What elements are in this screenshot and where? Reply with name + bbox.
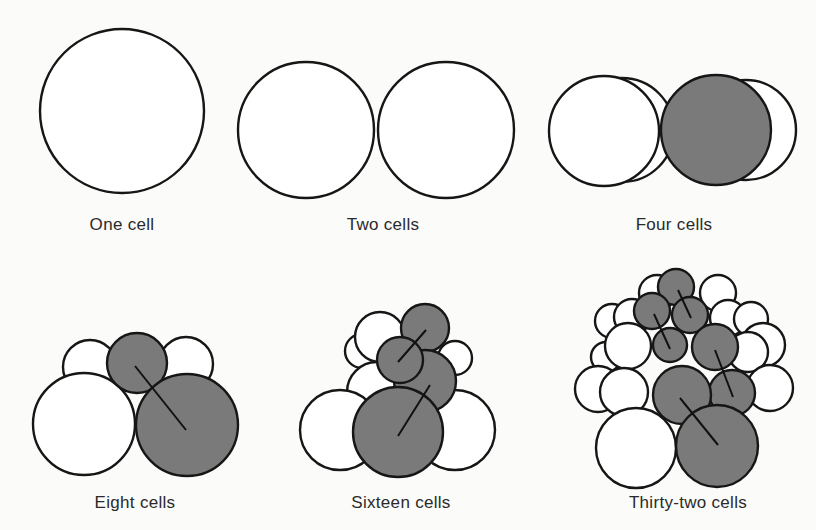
panel-one-cell	[40, 29, 204, 193]
panel-eight-cells	[33, 333, 238, 476]
panel-thirty-two-cells	[575, 269, 793, 488]
label-four-cells: Four cells	[636, 215, 713, 235]
panel-sixteen-cells	[300, 304, 495, 477]
label-sixteen-cells: Sixteen cells	[351, 493, 450, 513]
label-eight-cells: Eight cells	[95, 493, 176, 513]
panel-four-cells	[549, 75, 796, 186]
cleavage-diagram	[0, 0, 816, 530]
label-thirty-two-cells: Thirty-two cells	[629, 493, 747, 513]
label-one-cell: One cell	[90, 215, 155, 235]
label-two-cells: Two cells	[347, 215, 420, 235]
panel-two-cells	[238, 62, 514, 198]
